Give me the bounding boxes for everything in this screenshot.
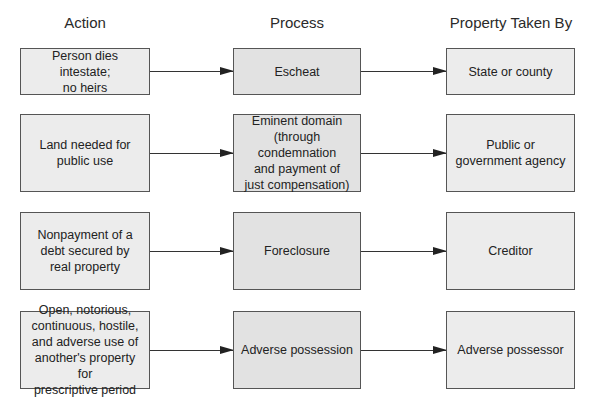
arrow-icon bbox=[150, 71, 233, 72]
arrow-icon bbox=[150, 153, 233, 154]
action-box: Nonpayment of a debt secured by real pro… bbox=[20, 212, 150, 290]
arrow-icon bbox=[361, 251, 446, 252]
action-box: Land needed for public use bbox=[20, 114, 150, 192]
arrow-icon bbox=[150, 350, 233, 351]
header-process: Process bbox=[233, 14, 361, 31]
taken-by-box: Creditor bbox=[446, 212, 575, 290]
header-taken-by: Property Taken By bbox=[446, 14, 576, 31]
process-box: Escheat bbox=[233, 48, 361, 95]
taken-by-box: Adverse possessor bbox=[446, 311, 575, 389]
arrow-icon bbox=[361, 71, 446, 72]
process-box: Adverse possession bbox=[233, 311, 361, 389]
arrow-icon bbox=[361, 153, 446, 154]
taken-by-box: Public or government agency bbox=[446, 114, 575, 192]
process-box: Foreclosure bbox=[233, 212, 361, 290]
arrow-icon bbox=[150, 251, 233, 252]
action-box: Person dies intestate; no heirs bbox=[20, 48, 150, 95]
taken-by-box: State or county bbox=[446, 48, 575, 95]
process-box: Eminent domain (through condemnation and… bbox=[233, 114, 361, 192]
header-action: Action bbox=[20, 14, 150, 31]
arrow-icon bbox=[361, 350, 446, 351]
action-box: Open, notorious, continuous, hostile, an… bbox=[20, 311, 150, 389]
